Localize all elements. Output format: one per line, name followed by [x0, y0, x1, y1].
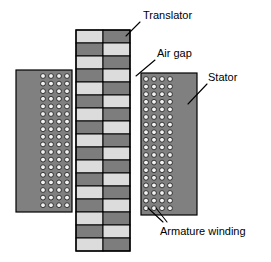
armature-winding-circle — [57, 188, 62, 193]
armature-winding-circle — [49, 104, 54, 109]
armature-winding-circle — [152, 130, 157, 135]
armature-winding-circle — [160, 130, 165, 135]
armature-winding-circle — [168, 175, 173, 180]
armature-winding-circle — [144, 92, 149, 97]
translator-cell-dark — [103, 82, 130, 95]
armature-winding-circle — [57, 150, 62, 155]
armature-winding-circle — [49, 157, 54, 162]
armature-winding-circle — [152, 160, 157, 165]
armature-winding-circle — [152, 153, 157, 158]
translator-group — [76, 30, 130, 251]
armature-winding-circle — [57, 142, 62, 147]
armature-winding-circle — [65, 96, 70, 101]
armature-winding-circle — [168, 107, 173, 112]
armature-winding-circle — [41, 104, 46, 109]
armature-winding-circle — [160, 107, 165, 112]
armature-winding-circle — [49, 188, 54, 193]
translator-cell-light — [103, 173, 130, 186]
stator-right — [141, 73, 197, 215]
translator-cell-light — [76, 82, 103, 95]
translator-cell-dark — [103, 108, 130, 121]
armature-winding-circle — [160, 122, 165, 127]
translator-cell-dark — [76, 199, 103, 212]
translator-cell-dark — [76, 225, 103, 238]
armature-winding-circle — [65, 119, 70, 124]
armature-winding-circle — [41, 172, 46, 177]
translator-cell-dark — [103, 160, 130, 173]
armature-winding-circle — [160, 191, 165, 196]
armature-winding-circle — [41, 188, 46, 193]
armature-winding-circle — [168, 168, 173, 173]
armature-winding-circle — [168, 137, 173, 142]
translator-cell-light — [103, 199, 130, 212]
armature-winding-circle — [65, 195, 70, 200]
armature-winding-circle — [144, 145, 149, 150]
diagram-canvas: TranslatorAir gapStatorArmature winding — [0, 0, 271, 262]
armature-winding-circle — [160, 175, 165, 180]
armature-winding-circle — [49, 119, 54, 124]
armature-winding-circle — [57, 172, 62, 177]
translator-cell-light — [103, 43, 130, 56]
armature-winding-circle — [49, 81, 54, 86]
armature-winding-circle — [152, 77, 157, 82]
armature-winding-circle — [144, 137, 149, 142]
armature-winding-circle — [168, 77, 173, 82]
translator-cell-dark — [76, 95, 103, 108]
translator-cell-light — [76, 108, 103, 121]
armature-winding-circle — [65, 74, 70, 79]
armature-winding-circle — [41, 203, 46, 208]
armature-winding-circle — [144, 153, 149, 158]
armature-winding-circle — [65, 104, 70, 109]
translator-cell-dark — [103, 212, 130, 225]
armature-winding-circle — [41, 119, 46, 124]
armature-winding-circle — [144, 175, 149, 180]
armature-winding-circle — [152, 145, 157, 150]
armature-winding-circle — [41, 89, 46, 94]
armature-winding-circle — [49, 172, 54, 177]
armature-winding-circle — [57, 203, 62, 208]
armature-winding-circle — [57, 180, 62, 185]
label-stator: Stator — [208, 72, 237, 83]
armature-winding-circle — [160, 145, 165, 150]
armature-winding-circle — [144, 160, 149, 165]
armature-winding-circle — [65, 188, 70, 193]
armature-winding-circle — [152, 107, 157, 112]
armature-winding-circle — [49, 134, 54, 139]
armature-winding-circle — [65, 157, 70, 162]
translator-cell-light — [103, 225, 130, 238]
armature-winding-circle — [144, 183, 149, 188]
armature-winding-circle — [160, 160, 165, 165]
translator-cell-dark — [76, 43, 103, 56]
armature-winding-circle — [152, 92, 157, 97]
armature-winding-circle — [152, 122, 157, 127]
translator-leader — [126, 22, 140, 36]
stator-left — [16, 70, 72, 212]
armature-winding-circle — [65, 81, 70, 86]
armature-winding-circle — [168, 84, 173, 89]
armature-winding-circle — [49, 89, 54, 94]
armature-winding-circle — [41, 74, 46, 79]
armature-winding-circle — [152, 191, 157, 196]
armature-winding-circle — [41, 150, 46, 155]
translator-cell-dark — [76, 173, 103, 186]
armature-winding-circle — [168, 145, 173, 150]
armature-winding-circle — [144, 191, 149, 196]
armature-winding-circle — [160, 92, 165, 97]
armature-winding-circle — [144, 84, 149, 89]
armature-winding-circle — [168, 160, 173, 165]
armature-winding-circle — [65, 134, 70, 139]
armature-winding-circle — [65, 142, 70, 147]
armature-winding-circle — [65, 150, 70, 155]
armature-winding-circle — [152, 84, 157, 89]
translator-cell-light — [103, 69, 130, 82]
translator-cell-dark — [76, 69, 103, 82]
translator-cell-light — [103, 95, 130, 108]
armature-winding-circle — [49, 180, 54, 185]
armature-winding-circle — [168, 206, 173, 211]
translator-cell-light — [76, 186, 103, 199]
armature-winding-circle — [49, 195, 54, 200]
armature-winding-circle — [144, 130, 149, 135]
armature-winding-circle — [41, 195, 46, 200]
armature-winding-circle — [168, 183, 173, 188]
armature-winding-circle — [57, 74, 62, 79]
